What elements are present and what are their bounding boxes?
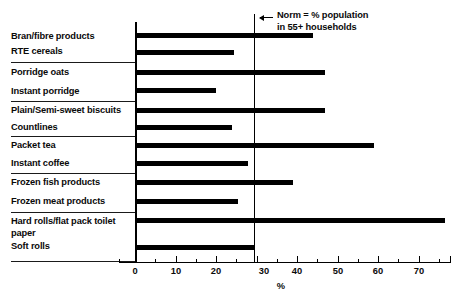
tick-minor-35: [277, 259, 278, 263]
x-axis-title: %: [277, 281, 285, 291]
category-axis-line: [119, 262, 451, 263]
tick-20: [216, 256, 217, 262]
tick-right-end: [450, 256, 451, 262]
tick-40: [297, 256, 298, 262]
category-label-countlines: Countlines: [11, 122, 58, 133]
norm-reference-line: [254, 14, 255, 262]
tick-0: [135, 256, 136, 262]
bar-instant-coffee: [135, 161, 248, 166]
bar-countlines: [135, 125, 232, 130]
tick-10: [176, 256, 177, 262]
bar-frozen-meat-products: [135, 199, 238, 204]
tick-70: [419, 256, 420, 262]
tick-label-20: 20: [211, 266, 221, 276]
bar-packet-tea: [135, 143, 374, 148]
tick-30: [257, 256, 258, 262]
bar-instant-porridge: [135, 88, 216, 93]
tick-minor-25: [236, 259, 237, 263]
tick-minor-15: [196, 259, 197, 263]
group-separator-3: [11, 136, 135, 137]
norm-annotation-arrow: [260, 17, 273, 18]
category-label-packet-tea: Packet tea: [11, 140, 56, 151]
norm-annotation-line-1: Norm = % population: [277, 10, 368, 22]
tick-label-50: 50: [333, 266, 343, 276]
value-axis-line: [135, 22, 137, 262]
group-separator-4: [11, 173, 135, 174]
bar-hard-rolls-flat-pack-toilet-paper: [135, 218, 445, 223]
tick-50: [338, 256, 339, 262]
tick-label-70: 70: [414, 266, 424, 276]
norm-annotation-line-2: in 55+ households: [277, 22, 357, 34]
bar-frozen-fish-products: [135, 180, 293, 185]
bar-porridge-oats: [135, 70, 325, 75]
tick-minor-75: [439, 259, 440, 263]
tick-minor-65: [398, 259, 399, 263]
category-label-column: Bran/fibre products RTE cereals Porridge…: [0, 0, 135, 301]
tick-minor-5: [155, 259, 156, 263]
category-label-porridge-oats: Porridge oats: [11, 67, 69, 78]
group-separator-bottom: [11, 261, 135, 262]
category-label-hard-rolls-flat-pack-toilet-paper: Hard rolls/flat pack toilet paper: [11, 216, 135, 239]
category-label-frozen-fish-products: Frozen fish products: [11, 177, 100, 188]
group-separator-2: [11, 101, 135, 102]
category-label-instant-porridge: Instant porridge: [11, 86, 79, 97]
category-label-plain-semi-sweet-biscuits: Plain/Semi-sweet biscuits: [11, 105, 121, 116]
bar-rte-cereals: [135, 50, 234, 55]
tick-minor-45: [317, 259, 318, 263]
category-label-soft-rolls: Soft rolls: [11, 241, 50, 252]
tick-minor-left-end: [119, 259, 120, 263]
bar-soft-rolls: [135, 245, 255, 250]
tick-label-60: 60: [373, 266, 383, 276]
tick-label-40: 40: [292, 266, 302, 276]
tick-label-0: 0: [132, 266, 137, 276]
bar-plain-semi-sweet-biscuits: [135, 108, 325, 113]
tick-label-30: 30: [259, 266, 269, 276]
tick-60: [378, 256, 379, 262]
tick-label-10: 10: [171, 266, 181, 276]
category-label-bran-fibre-products: Bran/fibre products: [11, 31, 94, 42]
group-separator-5: [11, 212, 135, 213]
category-label-rte-cereals: RTE cereals: [11, 46, 63, 57]
category-label-frozen-meat-products: Frozen meat products: [11, 196, 105, 207]
category-label-instant-coffee: Instant coffee: [11, 158, 69, 169]
bar-chart: Bran/fibre products RTE cereals Porridge…: [0, 0, 461, 301]
tick-minor-55: [358, 259, 359, 263]
group-separator-1: [11, 62, 135, 63]
bar-bran-fibre-products: [135, 33, 313, 38]
plot-area: [135, 0, 461, 301]
